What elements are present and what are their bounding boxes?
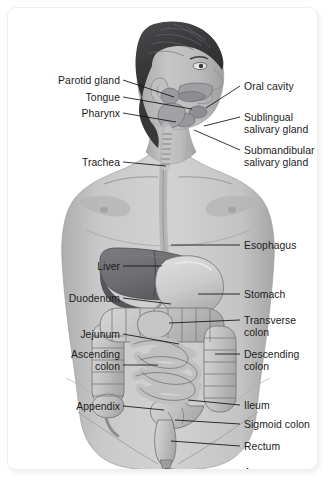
label-submandibular-salivary-gland: Submandibular salivary gland	[244, 145, 315, 168]
head	[135, 22, 223, 148]
label-sublingual-salivary-gland: Sublingual salivary gland	[244, 112, 308, 135]
pupil	[199, 64, 203, 68]
label-descending-colon: Descending colon	[244, 349, 299, 372]
label-duodenum: Duodenum	[69, 293, 120, 305]
label-pharynx: Pharynx	[82, 108, 120, 120]
label-rectum: Rectum	[244, 441, 280, 453]
label-appendix: Appendix	[76, 401, 120, 413]
digestive-system-figure: Parotid glandTonguePharynxTracheaLiverDu…	[8, 8, 318, 470]
label-esophagus: Esophagus	[244, 240, 296, 252]
nipple-left	[100, 207, 108, 213]
leader-sublingual-salivary-gland	[204, 117, 240, 126]
screenshot-root: Parotid glandTonguePharynxTracheaLiverDu…	[0, 0, 331, 490]
label-jejunum: Jejunum	[80, 329, 120, 341]
label-liver: Liver	[97, 261, 120, 273]
stomach-shape	[156, 256, 224, 316]
trachea-shape	[166, 130, 168, 166]
label-parotid-gland: Parotid gland	[58, 75, 120, 87]
label-sigmoid-colon: Sigmoid colon	[244, 419, 310, 431]
label-stomach: Stomach	[244, 289, 285, 301]
descending-colon-shape	[204, 326, 236, 412]
leader-submandibular-salivary-gland	[194, 130, 240, 150]
label-transverse-colon: Transverse colon	[244, 315, 296, 338]
rectum-shape	[155, 420, 176, 466]
leader-anus	[165, 469, 240, 470]
label-ileum: Ileum	[244, 400, 270, 412]
label-ascending-colon: Ascending colon	[71, 349, 120, 372]
figure-card: Parotid glandTonguePharynxTracheaLiverDu…	[7, 7, 318, 470]
label-anus: Anus	[244, 467, 268, 470]
label-tongue: Tongue	[86, 92, 120, 104]
nipple-right	[228, 207, 236, 213]
label-trachea: Trachea	[82, 157, 120, 169]
label-oral-cavity: Oral cavity	[244, 81, 294, 93]
anatomy-illustration	[8, 8, 318, 470]
